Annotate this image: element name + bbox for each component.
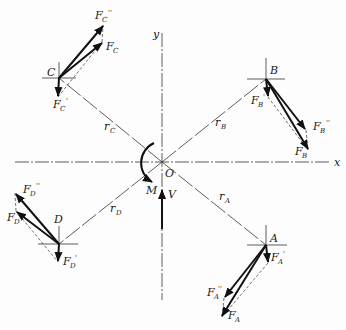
svg-text:B: B bbox=[257, 101, 263, 109]
svg-text:D: D bbox=[69, 262, 76, 270]
force-a-prime-label: F A ' bbox=[270, 250, 285, 266]
svg-text:C: C bbox=[113, 47, 119, 55]
svg-text:': ' bbox=[263, 93, 265, 101]
force-b-prime-label: F B ' bbox=[250, 93, 265, 109]
radius-b-line bbox=[162, 79, 266, 162]
point-c-label: C bbox=[47, 66, 56, 79]
svg-text:B: B bbox=[220, 123, 226, 131]
force-b-double-prime-arrow-icon bbox=[266, 79, 305, 129]
svg-text:B: B bbox=[301, 152, 307, 160]
svg-text:'': '' bbox=[326, 119, 330, 127]
svg-text:A: A bbox=[224, 197, 230, 205]
svg-text:C: C bbox=[102, 16, 108, 24]
force-b-label: F B bbox=[294, 145, 307, 160]
point-d-label: D bbox=[53, 213, 63, 226]
force-a-label: F A bbox=[227, 309, 240, 324]
force-d-prime-arrow-icon bbox=[58, 244, 59, 261]
moment-label: M bbox=[145, 184, 158, 197]
eccentric-load-diagram: y x O r C r B r D r A M V C F C '' bbox=[0, 0, 346, 330]
force-a-prime-arrow-icon bbox=[266, 245, 268, 262]
point-a-label: A bbox=[269, 232, 278, 245]
svg-text:B: B bbox=[319, 127, 325, 135]
svg-text:D: D bbox=[115, 209, 122, 217]
origin-label: O bbox=[165, 167, 174, 180]
point-b-label: B bbox=[269, 64, 278, 77]
shear-label: V bbox=[168, 188, 177, 201]
radius-a-label: r A bbox=[219, 190, 230, 205]
radius-d-label: r D bbox=[110, 202, 122, 217]
radius-a-line bbox=[162, 162, 266, 245]
force-b-arrow-icon bbox=[266, 79, 308, 149]
y-axis-label: y bbox=[152, 28, 160, 41]
force-c-prime-arrow-icon bbox=[58, 78, 59, 96]
svg-text:'': '' bbox=[36, 182, 40, 190]
force-c-label: F C bbox=[105, 40, 119, 55]
point-b: B F B ' F B '' F B bbox=[247, 58, 330, 160]
force-c-double-prime-arrow-icon bbox=[59, 26, 103, 78]
force-c-prime-label: F C ' bbox=[52, 97, 68, 113]
svg-text:'': '' bbox=[218, 285, 222, 293]
force-d-arrow-icon bbox=[17, 212, 59, 244]
svg-text:': ' bbox=[283, 250, 285, 258]
diagram-svg: y x O r C r B r D r A M V C F C '' bbox=[0, 0, 346, 330]
force-d-prime-label: F D ' bbox=[62, 254, 77, 270]
x-axis-label: x bbox=[334, 156, 341, 169]
force-a-double-prime-arrow-icon bbox=[225, 245, 266, 297]
force-d-double-prime-label: F D '' bbox=[22, 182, 40, 198]
svg-text:A: A bbox=[213, 293, 219, 301]
point-a: A F A ' F A '' F A bbox=[206, 225, 287, 324]
moment-arrow-icon bbox=[141, 143, 154, 182]
svg-text:': ' bbox=[75, 254, 77, 262]
svg-text:A: A bbox=[277, 258, 283, 266]
point-d: D F D '' F D F D ' bbox=[6, 182, 78, 270]
svg-text:C: C bbox=[60, 105, 66, 113]
svg-text:': ' bbox=[66, 97, 68, 105]
svg-text:C: C bbox=[110, 127, 116, 135]
force-c-arrow-icon bbox=[59, 43, 102, 78]
force-c-double-prime-label: F C '' bbox=[94, 9, 112, 24]
svg-text:D: D bbox=[29, 190, 36, 198]
force-a-double-prime-label: F A '' bbox=[206, 285, 222, 301]
svg-text:D: D bbox=[13, 218, 20, 226]
radius-b-label: r B bbox=[215, 116, 226, 131]
force-b-double-prime-label: F B '' bbox=[312, 119, 330, 135]
svg-text:'': '' bbox=[108, 9, 112, 17]
force-a-arrow-icon bbox=[222, 245, 266, 316]
point-c: C F C '' F C F C ' bbox=[42, 9, 119, 113]
radius-c-label: r C bbox=[104, 120, 116, 135]
svg-text:A: A bbox=[234, 316, 240, 324]
